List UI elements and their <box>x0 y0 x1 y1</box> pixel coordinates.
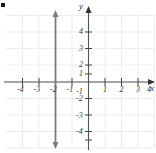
plotted-line-x-equals-negative-2 <box>53 10 59 149</box>
x-tick-label--1: -1 <box>67 86 74 94</box>
y-tick-label-1: 1 <box>79 70 83 78</box>
y-tick-label--3: -3 <box>76 112 83 120</box>
y-tick-label-4: 4 <box>79 28 83 36</box>
y-tick-label--2: -2 <box>76 95 83 103</box>
x-tick-label-2: 2 <box>120 86 124 94</box>
y-tick-label-2: 2 <box>79 61 83 69</box>
x-tick-label-1: 1 <box>103 86 107 94</box>
y-axis-arrow-icon <box>86 6 92 13</box>
y-tick-label--4: -4 <box>76 128 83 136</box>
y-tick-label-3: 3 <box>79 45 83 53</box>
x-tick-label-3: 3 <box>136 86 140 94</box>
x-tick-label--3: -3 <box>34 86 41 94</box>
y-axis <box>86 6 92 150</box>
coordinate-plane-figure: -4 -3 -2 -1 1 2 3 4 4 3 2 1 -1 -2 -3 -4 … <box>0 0 156 153</box>
x-tick-label--2: -2 <box>50 86 57 94</box>
x-axis <box>4 79 155 85</box>
x-tick-label--4: -4 <box>17 86 24 94</box>
line-arrow-up-icon <box>53 10 59 17</box>
x-axis-label: x <box>150 84 154 93</box>
y-axis-label: y <box>79 2 83 11</box>
